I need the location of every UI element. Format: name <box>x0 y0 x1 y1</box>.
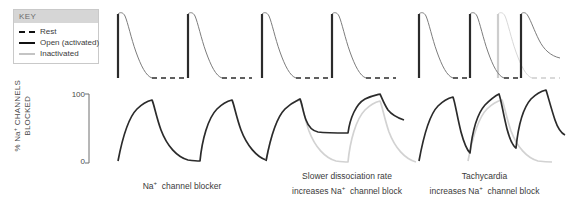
y-axis <box>85 94 89 163</box>
caption-panel-3: Tachycardia increases Na+ channel block <box>400 171 569 197</box>
caption-panel-3-line2: increases Na+ channel block <box>430 186 540 196</box>
na-channel-blockade-figure: KEY Rest Open (activated) Inactivated % … <box>0 0 569 204</box>
ap-panel-3-ghost-trace <box>498 13 560 78</box>
block-curve-panel-2 <box>266 94 416 162</box>
caption-panel-3-line1: Tachycardia <box>462 171 507 181</box>
caption-panel-2-line1: Slower dissociation rate <box>302 171 392 181</box>
block-curve-panel-1 <box>118 100 266 161</box>
block-curve-panel-2-ghost <box>266 100 416 162</box>
caption-panel-2-line2: increases Na+ channel block <box>292 186 402 196</box>
block-curve-panel-3 <box>419 90 565 162</box>
ap-panel-2 <box>262 13 396 78</box>
ap-panel-1 <box>118 13 252 78</box>
ap-panel-3 <box>419 13 560 78</box>
block-curve-panel-3-ghost <box>468 100 552 162</box>
action-potential-row <box>118 13 560 78</box>
percent-block-row <box>118 90 565 162</box>
